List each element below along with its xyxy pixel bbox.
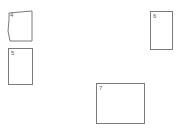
bounding-box-5-label: 5 — [11, 50, 14, 57]
bounding-box-4[interactable]: 4 — [8, 11, 33, 42]
bounding-box-6[interactable]: 6 — [150, 11, 173, 50]
annotation-canvas[interactable]: 4 5 6 7 — [0, 0, 180, 132]
bounding-box-4-label: 4 — [10, 12, 13, 19]
bounding-box-7[interactable]: 7 — [96, 83, 145, 124]
bounding-box-5[interactable]: 5 — [8, 48, 33, 85]
bounding-box-7-label: 7 — [99, 85, 102, 92]
bounding-box-6-label: 6 — [153, 13, 156, 20]
